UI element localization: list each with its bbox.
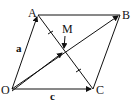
label-m-point: M — [62, 22, 73, 36]
label-vector-c: c — [50, 90, 55, 102]
vector-om — [12, 53, 62, 91]
label-vector-a: a — [16, 42, 22, 54]
side-bc — [93, 15, 120, 89]
label-b-point: B — [122, 8, 130, 22]
label-a-point: A — [28, 6, 37, 20]
label-o-point: O — [1, 83, 10, 97]
parallelogram-diagram: A B O C M a c — [0, 0, 134, 105]
label-c-point: C — [96, 83, 104, 97]
m-pointer-arrow — [64, 36, 65, 48]
